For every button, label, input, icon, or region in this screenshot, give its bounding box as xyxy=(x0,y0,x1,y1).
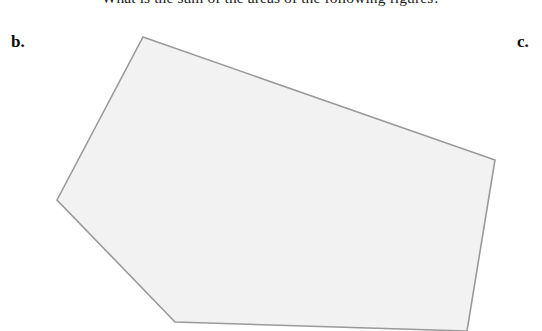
irregular-pentagon-shape xyxy=(57,37,495,331)
worksheet-page: What is the sum of the areas of the foll… xyxy=(0,0,542,331)
figure-canvas xyxy=(0,0,542,331)
